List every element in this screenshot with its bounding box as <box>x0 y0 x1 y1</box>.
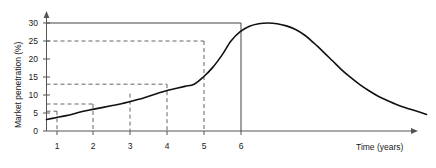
y-tick-label-5: 5 <box>22 109 38 118</box>
y-tick-label-0: 0 <box>22 127 38 136</box>
y-tick-label-30: 30 <box>22 19 38 28</box>
market-penetration-chart: 0 5 10 15 20 25 30 1 2 3 4 5 6 Market pe… <box>0 0 436 168</box>
axes-group <box>44 11 418 134</box>
x-tick-label-4: 4 <box>160 142 174 151</box>
x-tick-label-2: 2 <box>86 142 100 151</box>
x-axis-arrowhead <box>411 128 418 134</box>
penetration-curve <box>47 23 427 119</box>
x-tick-label-3: 3 <box>123 142 137 151</box>
peak-guide-lines <box>47 23 242 131</box>
y-tick-label-20: 20 <box>22 55 38 64</box>
x-tick-marks <box>57 131 241 135</box>
x-axis-title: Time (years) <box>356 143 403 152</box>
y-axis-title: Market penetration (%) <box>14 42 23 128</box>
y-tick-label-25: 25 <box>22 37 38 46</box>
x-tick-label-6: 6 <box>234 142 248 151</box>
x-tick-label-1: 1 <box>50 142 64 151</box>
x-tick-label-5: 5 <box>197 142 211 151</box>
y-axis-arrowhead <box>44 11 50 18</box>
dashed-guide-lines <box>47 41 205 131</box>
y-tick-label-15: 15 <box>22 73 38 82</box>
y-tick-label-10: 10 <box>22 91 38 100</box>
